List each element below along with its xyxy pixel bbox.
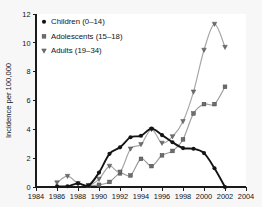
- data-point-adolescents: [139, 157, 143, 161]
- data-point-adolescents: [213, 102, 217, 106]
- y-tick-label: 8: [26, 67, 30, 76]
- x-tick-label: 1992: [112, 192, 128, 201]
- x-tick-label: 1984: [28, 192, 44, 201]
- data-point-children: [170, 140, 174, 144]
- data-point-adolescents: [150, 164, 154, 168]
- data-point-children: [55, 184, 59, 188]
- data-point-children: [191, 147, 195, 151]
- data-point-children: [202, 151, 206, 155]
- y-tick-label: 0: [26, 183, 30, 192]
- legend-marker-children: [42, 20, 46, 24]
- x-tick-label: 1988: [70, 192, 86, 201]
- y-tick-label: 12: [22, 10, 30, 19]
- data-point-children: [118, 145, 122, 149]
- x-tick-label: 2004: [238, 192, 254, 201]
- y-tick-label: 2: [26, 154, 30, 163]
- data-point-children: [128, 135, 132, 139]
- data-point-children: [181, 146, 185, 150]
- chart-figure: 024681012 198419861988199019921994199619…: [0, 0, 262, 207]
- x-tick-label: 1996: [154, 192, 170, 201]
- x-tick-label: 1994: [133, 192, 149, 201]
- data-point-children: [139, 134, 143, 138]
- data-point-adolescents: [202, 102, 206, 106]
- data-point-children: [107, 152, 111, 156]
- data-point-adolescents: [160, 153, 164, 157]
- data-point-adolescents: [181, 138, 185, 142]
- legend-marker-adolescents: [42, 34, 46, 38]
- data-point-children: [160, 133, 164, 137]
- data-point-children: [212, 166, 216, 170]
- x-tick-label: 2002: [217, 192, 233, 201]
- legend-label-adolescents: Adolescents (15–18): [51, 32, 123, 41]
- y-tick-label: 6: [26, 96, 30, 105]
- legend-label-children: Children (0–14): [51, 17, 105, 26]
- data-point-adolescents: [223, 85, 227, 89]
- y-tick-label: 4: [26, 125, 30, 134]
- y-axis-label: Incidence per 100,000: [4, 63, 13, 138]
- data-point-adolescents: [129, 174, 133, 178]
- data-point-children: [65, 184, 69, 188]
- data-point-adolescents: [171, 149, 175, 153]
- data-point-children: [149, 127, 153, 131]
- data-point-children: [223, 185, 227, 189]
- x-tick-label: 1998: [175, 192, 191, 201]
- line-chart: 024681012 198419861988199019921994199619…: [0, 0, 262, 207]
- x-tick-label: 1990: [91, 192, 107, 201]
- data-point-adolescents: [108, 180, 112, 184]
- y-axis-title: Incidence per 100,000: [4, 63, 13, 138]
- data-point-children: [86, 184, 90, 188]
- y-tick-label: 10: [22, 39, 30, 48]
- data-point-adolescents: [97, 183, 101, 187]
- x-tick-label: 2000: [196, 192, 212, 201]
- data-point-children: [97, 171, 101, 175]
- data-point-adolescents: [192, 112, 196, 116]
- legend-label-adults: Adults (19–34): [51, 46, 102, 55]
- x-tick-label: 1986: [49, 192, 65, 201]
- data-point-children: [76, 181, 80, 185]
